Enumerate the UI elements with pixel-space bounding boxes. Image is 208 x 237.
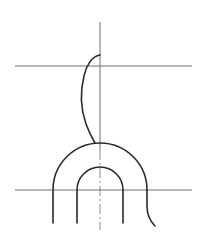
curved-profile-line bbox=[82, 55, 100, 143]
outer-arch-right-tail bbox=[147, 190, 155, 226]
diagram-canvas bbox=[0, 0, 208, 237]
